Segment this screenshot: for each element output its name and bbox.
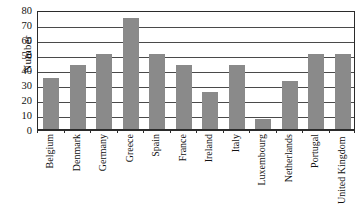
- y-tick-label: 70: [22, 21, 33, 32]
- x-label-slot: Ireland: [196, 134, 223, 204]
- y-axis-tick-labels: 01020304050607080: [6, 11, 32, 131]
- x-tick-mark: [223, 130, 224, 133]
- bar: [43, 78, 59, 129]
- y-tick-label: 40: [22, 66, 33, 77]
- x-tick-label: Germany: [98, 134, 109, 171]
- x-label-slot: Denmark: [64, 134, 91, 204]
- x-tick-mark: [90, 130, 91, 133]
- x-tick-label: Ireland: [204, 134, 215, 162]
- bar: [282, 81, 298, 129]
- x-label-slot: Italy: [223, 134, 250, 204]
- x-label-slot: Portugal: [302, 134, 329, 204]
- x-axis-category-labels: BelgiumDenmarkGermanyGreeceSpainFranceIr…: [37, 134, 355, 204]
- bar: [335, 54, 351, 129]
- x-label-slot: Netherlands: [276, 134, 303, 204]
- x-tick-mark: [64, 130, 65, 133]
- bar: [308, 54, 324, 129]
- bar: [96, 54, 112, 129]
- x-tick-label: Luxembourg: [257, 134, 268, 185]
- x-label-slot: Belgium: [37, 134, 64, 204]
- x-tick-label: Belgium: [45, 134, 56, 168]
- x-tick-mark: [276, 130, 277, 133]
- x-tick-mark: [302, 130, 303, 133]
- y-tick-label: 80: [22, 6, 33, 17]
- bar-chart: Number 01020304050607080 BelgiumDenmarkG…: [0, 0, 361, 204]
- y-tick-label: 30: [22, 81, 33, 92]
- y-tick-label: 0: [27, 126, 32, 137]
- x-label-slot: France: [170, 134, 197, 204]
- bar: [202, 92, 218, 130]
- y-tick-label: 50: [22, 51, 33, 62]
- x-tick-mark: [37, 130, 38, 133]
- x-tick-mark: [117, 130, 118, 133]
- x-tick-mark: [329, 130, 330, 133]
- y-tick-label: 60: [22, 36, 33, 47]
- x-tick-label: United Kingdom: [337, 134, 348, 204]
- bar: [229, 65, 245, 130]
- x-tick-label: Denmark: [72, 134, 83, 171]
- x-tick-mark: [354, 130, 355, 133]
- bar: [70, 65, 86, 130]
- bar: [149, 54, 165, 129]
- x-tick-mark: [249, 130, 250, 133]
- x-label-slot: Germany: [90, 134, 117, 204]
- x-tick-label: Netherlands: [284, 134, 295, 182]
- plot-area: [37, 11, 355, 131]
- x-tick-mark: [143, 130, 144, 133]
- x-label-slot: Spain: [143, 134, 170, 204]
- y-tick-label: 20: [22, 96, 33, 107]
- x-tick-label: Portugal: [310, 134, 321, 168]
- x-tick-label: France: [178, 134, 189, 161]
- bar-series: [38, 12, 354, 129]
- x-tick-label: Italy: [231, 134, 242, 152]
- x-tick-label: Greece: [125, 134, 136, 162]
- bar: [255, 119, 271, 130]
- x-tick-mark: [196, 130, 197, 133]
- x-label-slot: United Kingdom: [329, 134, 356, 204]
- bar: [123, 18, 139, 129]
- x-tick-mark: [170, 130, 171, 133]
- x-label-slot: Luxembourg: [249, 134, 276, 204]
- x-label-slot: Greece: [117, 134, 144, 204]
- bar: [176, 65, 192, 130]
- x-tick-label: Spain: [151, 134, 162, 157]
- y-tick-label: 10: [22, 111, 33, 122]
